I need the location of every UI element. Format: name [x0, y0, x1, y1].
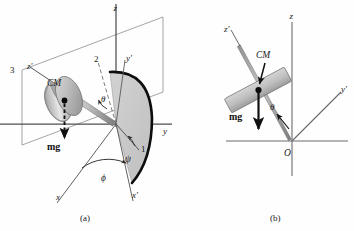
label-origin-b: O: [284, 148, 291, 158]
label-line-2: 2: [94, 54, 99, 64]
physics-figure: z y x x′ y′ z′ 3 2 1 CM mg θ ϕ ψ (a): [0, 0, 354, 231]
label-y-prime-b: y′: [340, 84, 348, 94]
x-axis-line: [57, 124, 116, 203]
label-z-b: z: [289, 11, 294, 21]
label-y-a: y: [162, 126, 167, 136]
panel-b: z y′ z′ CM mg θ O (b): [223, 11, 348, 223]
label-z-a: z: [113, 3, 118, 13]
label-line-1: 1: [141, 144, 146, 154]
label-line-3: 3: [10, 65, 15, 75]
center-of-mass-dot: [62, 98, 68, 104]
label-theta-a: θ: [101, 94, 106, 104]
label-x-prime-a: x′: [131, 190, 139, 200]
label-y-prime-a: y′: [125, 53, 133, 63]
label-z-prime-b: z′: [223, 24, 231, 34]
label-weight-b: mg: [229, 111, 242, 122]
label-cm-b: CM: [256, 50, 271, 60]
label-x-a: x: [55, 192, 60, 202]
caption-b: (b): [270, 213, 281, 223]
panel-a: z y x x′ y′ z′ 3 2 1 CM mg θ ϕ ψ (a): [0, 3, 172, 223]
label-z-prime-a: z′: [26, 61, 34, 71]
label-cm-a: CM: [47, 78, 62, 88]
label-theta-b: θ: [270, 102, 275, 112]
z-prime-axis-line-b: [231, 30, 240, 46]
y-prime-axis-line-b: [292, 92, 341, 141]
label-phi-a: ϕ: [101, 173, 106, 183]
label-weight-a: mg: [47, 141, 60, 152]
caption-a: (a): [80, 213, 90, 223]
figure-canvas: z y x x′ y′ z′ 3 2 1 CM mg θ ϕ ψ (a): [0, 0, 354, 231]
